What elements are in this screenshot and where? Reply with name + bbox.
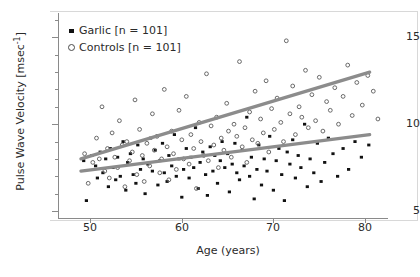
legend-item-controls: Controls [n = 101] bbox=[63, 39, 181, 56]
y-tick-minor bbox=[55, 55, 59, 56]
y-tick-minor bbox=[55, 159, 59, 160]
y-tick-label: 5 bbox=[374, 205, 420, 216]
y-tick-major bbox=[52, 124, 59, 125]
y-axis-title: Pulse Wave Velocity [msec-1] bbox=[13, 16, 28, 206]
y-tick-minor bbox=[55, 176, 59, 177]
x-axis-title: Age (years) bbox=[118, 244, 338, 257]
y-axis-title-exponent: -1 bbox=[13, 36, 22, 44]
y-tick-minor bbox=[55, 89, 59, 90]
y-axis-title-bracket: ] bbox=[14, 32, 27, 36]
legend: Garlic [n = 101] Controls [n = 101] bbox=[63, 22, 181, 56]
y-tick-label: 15 bbox=[374, 31, 420, 42]
legend-label-garlic: Garlic [n = 101] bbox=[79, 25, 167, 36]
y-tick-major bbox=[52, 37, 59, 38]
legend-marker-filled-square-icon bbox=[63, 29, 79, 33]
legend-label-controls: Controls [n = 101] bbox=[79, 42, 181, 53]
y-tick-major bbox=[52, 211, 59, 212]
x-tick-label: 70 bbox=[253, 222, 293, 233]
y-tick-minor bbox=[55, 20, 59, 21]
y-tick-minor bbox=[55, 194, 59, 195]
y-axis-line bbox=[58, 13, 59, 219]
y-tick-label: 10 bbox=[374, 118, 420, 129]
y-tick-minor bbox=[55, 142, 59, 143]
legend-item-garlic: Garlic [n = 101] bbox=[63, 22, 181, 39]
y-tick-minor bbox=[55, 107, 59, 108]
y-tick-minor bbox=[55, 72, 59, 73]
x-tick-label: 50 bbox=[70, 222, 110, 233]
x-tick-label: 60 bbox=[162, 222, 202, 233]
x-axis-line bbox=[58, 218, 388, 219]
legend-marker-open-circle-icon bbox=[63, 44, 79, 51]
x-tick-label: 80 bbox=[345, 222, 385, 233]
figure-scatter-plot: Pulse Wave Velocity [msec-1] Age (years)… bbox=[0, 0, 420, 277]
y-axis-title-text: Pulse Wave Velocity [msec bbox=[14, 44, 27, 190]
